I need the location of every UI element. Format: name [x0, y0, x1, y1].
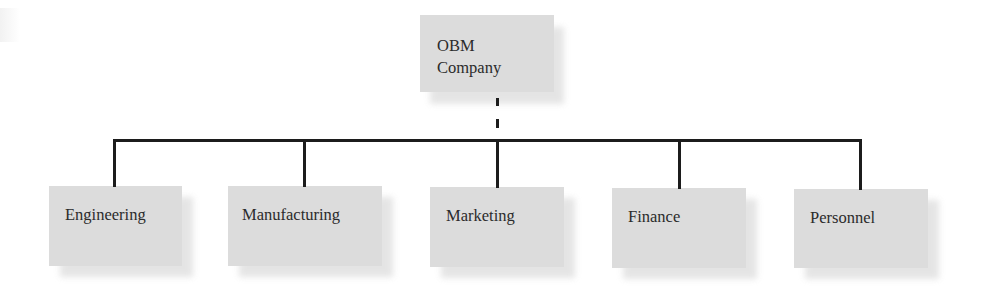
- child-node-manufacturing: Manufacturing: [228, 186, 382, 266]
- corner-artifact: [0, 8, 20, 42]
- root-dashed-connector-segment-2: [496, 119, 499, 128]
- child-node-finance: Finance: [612, 188, 746, 268]
- root-node-obm-company: OBM Company: [420, 15, 554, 92]
- drop-line-engineering: [113, 139, 116, 187]
- drop-line-finance: [678, 139, 681, 189]
- child-node-label: Engineering: [65, 204, 146, 226]
- root-node-label-line2: Company: [437, 57, 501, 79]
- child-node-label: Manufacturing: [242, 204, 340, 226]
- root-node-label-line1: OBM: [437, 35, 475, 57]
- child-node-engineering: Engineering: [49, 186, 182, 266]
- root-dashed-connector-segment-1: [496, 98, 499, 106]
- child-node-label: Finance: [628, 206, 680, 228]
- horizontal-bus-line: [113, 139, 862, 142]
- child-node-label: Personnel: [810, 207, 875, 229]
- drop-line-marketing: [496, 139, 499, 188]
- drop-line-personnel: [859, 139, 862, 190]
- drop-line-manufacturing: [303, 139, 306, 187]
- child-node-personnel: Personnel: [794, 189, 928, 268]
- child-node-marketing: Marketing: [430, 187, 564, 267]
- child-node-label: Marketing: [446, 205, 515, 227]
